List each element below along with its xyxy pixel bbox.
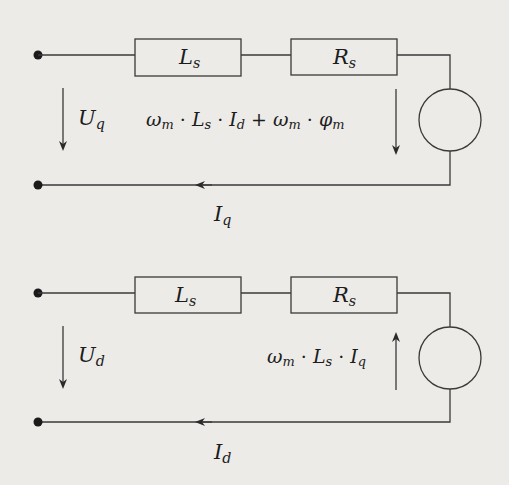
d-current-label: Id bbox=[214, 442, 231, 465]
q-current-label: Iq bbox=[214, 204, 231, 227]
d-bottom-terminal bbox=[34, 418, 43, 427]
q-current-sub: q bbox=[222, 212, 231, 228]
q-bottom-terminal bbox=[34, 181, 43, 190]
d-voltage-label: Ud bbox=[78, 345, 105, 368]
q-inductor-label: Ls bbox=[179, 47, 200, 70]
d-inductor-sub: s bbox=[189, 293, 196, 309]
circuit-wiring bbox=[0, 0, 509, 485]
q-voltage-symbol: U bbox=[78, 106, 96, 130]
d-resistor-sub: s bbox=[349, 293, 356, 309]
q-emf-expression: ωm · Ls · Id + ωm · φm bbox=[146, 110, 344, 132]
q-top-wire-right bbox=[397, 55, 450, 89]
q-voltage-source-icon bbox=[419, 89, 481, 151]
q-voltage-label: Uq bbox=[78, 108, 105, 131]
d-resistor-label: Rs bbox=[333, 285, 356, 308]
q-bottom-wire bbox=[38, 151, 450, 185]
d-emf-expression: ωm · Ls · Iq bbox=[267, 347, 366, 369]
d-voltage-symbol: U bbox=[78, 343, 96, 367]
d-voltage-sub: d bbox=[96, 353, 105, 369]
d-inductor-symbol: L bbox=[175, 283, 189, 307]
circuit-diagram: Ls Rs Uq ωm · Ls · Id + ωm · φm Iq Ls Rs… bbox=[0, 0, 509, 485]
d-resistor-symbol: R bbox=[333, 283, 349, 307]
q-inductor-symbol: L bbox=[179, 45, 193, 69]
d-bottom-wire bbox=[38, 389, 450, 422]
q-inductor-sub: s bbox=[193, 55, 200, 71]
d-voltage-source-icon bbox=[419, 327, 481, 389]
d-top-wire-right bbox=[397, 293, 450, 327]
q-resistor-label: Rs bbox=[333, 47, 356, 70]
d-inductor-label: Ls bbox=[175, 285, 196, 308]
q-resistor-sub: s bbox=[349, 55, 356, 71]
d-current-sub: d bbox=[222, 450, 231, 466]
q-resistor-symbol: R bbox=[333, 45, 349, 69]
q-voltage-sub: q bbox=[96, 116, 105, 132]
